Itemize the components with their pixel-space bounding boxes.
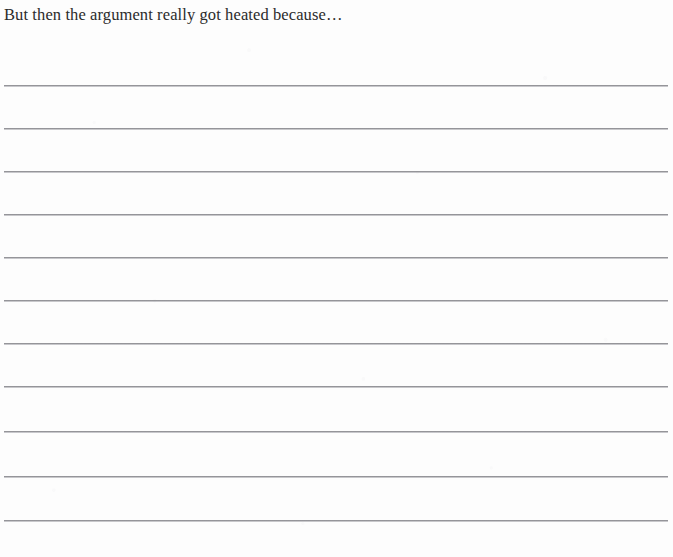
writing-rule-line (4, 128, 668, 130)
writing-rule-line (4, 257, 668, 259)
writing-rule-line (4, 171, 668, 173)
writing-rule-line (4, 343, 668, 345)
ruled-lines-group (0, 0, 673, 557)
paper-texture-overlay (0, 0, 673, 557)
writing-rule-line (4, 476, 668, 478)
writing-rule-line (4, 214, 668, 216)
writing-rule-line (4, 520, 668, 522)
writing-prompt-text: But then the argument really got heated … (4, 5, 644, 25)
writing-rule-line (4, 300, 668, 302)
writing-rule-line (4, 85, 668, 87)
journal-page: But then the argument really got heated … (0, 0, 673, 557)
writing-rule-line (4, 386, 668, 388)
writing-rule-line (4, 431, 668, 433)
